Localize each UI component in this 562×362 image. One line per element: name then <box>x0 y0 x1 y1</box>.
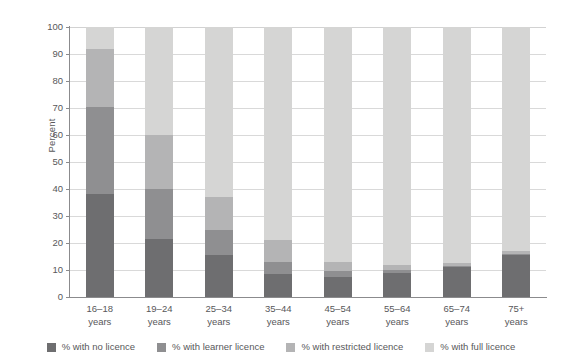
y-tick-label: 10 <box>52 265 63 275</box>
legend-swatch-icon <box>425 343 434 352</box>
y-tick-label: 0 <box>58 292 63 302</box>
bar-segment <box>205 27 233 197</box>
bar-segment <box>86 107 114 195</box>
legend-swatch-icon <box>286 343 295 352</box>
bar-segment <box>443 267 471 297</box>
x-tick-label: 65–74years <box>427 303 487 328</box>
bar-segment <box>264 274 292 297</box>
bar-group <box>86 27 114 297</box>
bar-segment <box>145 135 173 189</box>
bar-group <box>264 27 292 297</box>
bar-stack <box>443 27 471 297</box>
legend-swatch-icon <box>47 343 56 352</box>
bar-segment <box>443 27 471 263</box>
bar-stack <box>86 27 114 297</box>
legend-item: % with no licence <box>47 342 135 352</box>
legend-label: % with full licence <box>440 342 515 352</box>
bar-segment <box>145 189 173 239</box>
y-tick-label: 70 <box>52 103 63 113</box>
y-tick-label: 60 <box>52 130 63 140</box>
bar-group <box>205 27 233 297</box>
y-tick-label: 30 <box>52 211 63 221</box>
x-axis-line <box>69 297 547 298</box>
bar-stack <box>383 27 411 297</box>
stacked-bar-chart: Percent 0102030405060708090100 16–18year… <box>0 0 562 362</box>
bar-segment <box>383 273 411 297</box>
x-tick-label: 35–44years <box>249 303 309 328</box>
bar-stack <box>205 27 233 297</box>
bar-segment <box>86 49 114 107</box>
bar-segment <box>205 197 233 229</box>
y-tick-label: 20 <box>52 238 63 248</box>
legend-item: % with restricted licence <box>286 342 403 352</box>
legend-swatch-icon <box>157 343 166 352</box>
bar-group <box>383 27 411 297</box>
y-tick-label: 50 <box>52 157 63 167</box>
legend-label: % with no licence <box>62 342 135 352</box>
bar-segment <box>264 262 292 274</box>
bar-segment <box>86 194 114 297</box>
bar-segment <box>324 277 352 297</box>
bar-segment <box>324 27 352 262</box>
bar-segment <box>205 255 233 297</box>
chart-legend: % with no licence% with learner licence%… <box>0 339 562 355</box>
x-tick-label: 16–18years <box>70 303 130 328</box>
bar-segment <box>86 27 114 49</box>
y-tick-label: 100 <box>47 22 63 32</box>
bar-segment <box>502 27 530 251</box>
x-tick-label: 25–34years <box>189 303 249 328</box>
bar-segment <box>383 27 411 265</box>
legend-label: % with restricted licence <box>301 342 403 352</box>
bar-segment <box>205 230 233 256</box>
bar-stack <box>324 27 352 297</box>
y-tick-label: 40 <box>52 184 63 194</box>
x-tick-label: 19–24years <box>130 303 190 328</box>
bar-group <box>443 27 471 297</box>
bar-segment <box>145 27 173 135</box>
bar-stack <box>502 27 530 297</box>
bar-segment <box>324 262 352 271</box>
bar-segment <box>502 255 530 297</box>
legend-label: % with learner licence <box>172 342 264 352</box>
bar-group <box>324 27 352 297</box>
bar-segment <box>264 27 292 240</box>
bar-group <box>502 27 530 297</box>
y-tick-label: 80 <box>52 76 63 86</box>
legend-item: % with full licence <box>425 342 515 352</box>
y-tick-label: 90 <box>52 49 63 59</box>
bar-group <box>145 27 173 297</box>
x-tick-label: 55–64years <box>368 303 428 328</box>
x-tick-label: 45–54years <box>308 303 368 328</box>
bar-stack <box>264 27 292 297</box>
x-tick-label: 75+years <box>487 303 547 328</box>
bars-layer <box>70 27 546 297</box>
bar-stack <box>145 27 173 297</box>
legend-item: % with learner licence <box>157 342 264 352</box>
bar-segment <box>145 239 173 297</box>
bar-segment <box>264 240 292 262</box>
y-tick-mark <box>66 297 70 298</box>
plot-area: 0102030405060708090100 <box>70 27 546 297</box>
x-axis-labels: 16–18years19–24years25–34years35–44years… <box>70 303 546 333</box>
